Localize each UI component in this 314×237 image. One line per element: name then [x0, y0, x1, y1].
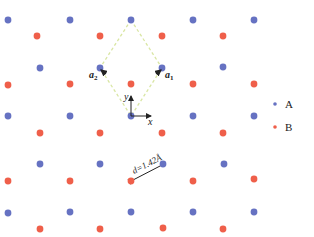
site-b — [34, 33, 41, 40]
legend-marker-a — [273, 102, 277, 106]
site-a — [37, 65, 44, 72]
site-b — [5, 178, 12, 185]
site-a — [5, 113, 12, 120]
site-b — [37, 226, 44, 233]
legend: A B — [273, 98, 293, 133]
site-b — [67, 81, 74, 88]
site-b — [128, 81, 135, 88]
site-b — [159, 130, 166, 137]
site-a — [221, 161, 228, 168]
site-a — [190, 113, 197, 120]
site-b — [159, 33, 166, 40]
site-b — [97, 33, 104, 40]
site-b — [160, 225, 167, 232]
site-b — [5, 82, 12, 89]
legend-marker-b — [273, 125, 277, 129]
site-a — [37, 161, 44, 168]
a2-arrow — [101, 70, 106, 74]
site-a — [67, 113, 74, 120]
site-b — [97, 130, 104, 137]
site-b — [67, 178, 74, 185]
site-a — [128, 209, 135, 216]
site-a — [5, 17, 12, 24]
site-a — [251, 209, 258, 216]
site-b — [128, 178, 135, 185]
site-a — [251, 113, 258, 120]
site-a — [190, 17, 197, 24]
site-b — [220, 33, 227, 40]
a2-label: a2 — [89, 69, 98, 82]
site-a — [5, 210, 12, 217]
site-b — [37, 130, 44, 137]
lattice-diagram: x y a2 a1 d=1.42Å A B — [0, 0, 314, 237]
site-b — [251, 176, 258, 183]
y-axis-label: y — [123, 91, 129, 102]
site-a — [128, 17, 135, 24]
sublattice-b — [5, 33, 258, 233]
legend-label-a: A — [285, 98, 293, 110]
site-a — [67, 209, 74, 216]
x-axis-label: x — [147, 116, 153, 127]
site-a — [220, 64, 227, 71]
legend-label-b: B — [285, 121, 292, 133]
a1-label: a1 — [165, 69, 174, 82]
site-a — [67, 17, 74, 24]
a1-arrow — [156, 70, 161, 74]
site-a — [251, 17, 258, 24]
site-b — [190, 178, 197, 185]
site-a — [97, 161, 104, 168]
site-a — [190, 209, 197, 216]
site-b — [251, 81, 258, 88]
site-b — [97, 226, 104, 233]
site-b — [220, 130, 227, 137]
site-b — [220, 226, 227, 233]
site-b — [190, 81, 197, 88]
